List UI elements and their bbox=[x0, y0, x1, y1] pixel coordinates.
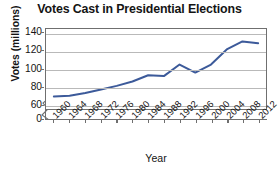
x-tick-mark bbox=[85, 120, 86, 123]
x-axis-baseline bbox=[45, 119, 267, 120]
y-axis-stub bbox=[45, 110, 46, 120]
x-tick-mark bbox=[227, 120, 228, 123]
x-tick-mark bbox=[132, 120, 133, 123]
x-tick-mark bbox=[53, 120, 54, 123]
x-tick-mark bbox=[101, 120, 102, 123]
x-tick-mark bbox=[164, 120, 165, 123]
x-tick-mark bbox=[243, 120, 244, 123]
x-axis-tick-labels: 1960196419681972197619801984198819921996… bbox=[0, 0, 279, 176]
x-axis-label: Year bbox=[44, 152, 268, 164]
x-tick-mark bbox=[212, 120, 213, 123]
x-tick-mark bbox=[148, 120, 149, 123]
x-tick-mark bbox=[196, 120, 197, 123]
x-tick-mark bbox=[259, 120, 260, 123]
x-tick-mark bbox=[69, 120, 70, 123]
chart-figure: Votes Cast in Presidential Elections Vot… bbox=[0, 0, 279, 176]
x-tick-label: 2012 bbox=[256, 98, 279, 121]
x-tick-mark bbox=[116, 120, 117, 123]
x-tick-mark bbox=[180, 120, 181, 123]
